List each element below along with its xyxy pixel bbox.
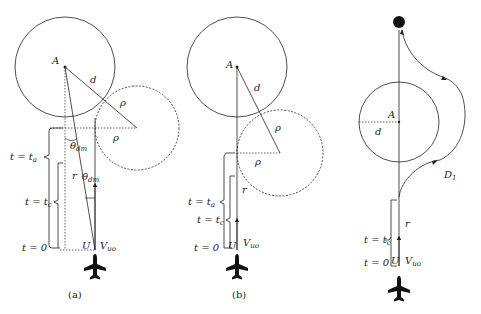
theta-label: θdm — [82, 171, 100, 184]
rho-label: ρ — [274, 122, 281, 133]
rho-label: ρ — [119, 97, 126, 108]
theta-label: θdm — [70, 140, 88, 153]
t-c-label: t = tc — [25, 196, 52, 209]
d1-label: D1 — [443, 169, 457, 182]
center-label: A — [225, 59, 233, 70]
t-a-label: t = ta — [188, 196, 215, 209]
panel-b: A d ρ ρ r U Vuo t = ta t = tc t = 0 (b) — [187, 17, 323, 300]
avoidance-path — [399, 30, 465, 197]
rho-label: ρ — [254, 156, 261, 167]
t-0-label: t = 0 — [194, 242, 220, 253]
u-label: U — [228, 240, 237, 251]
t-c-label: t = tc — [197, 214, 224, 227]
d-label: d — [90, 74, 96, 85]
t-0-label: t = 0 — [22, 242, 48, 253]
r-label: r — [242, 184, 248, 195]
aircraft-icon — [388, 276, 410, 302]
t-c-label: t = tc — [364, 234, 391, 247]
caption-b: (b) — [232, 289, 246, 300]
velocity-label: Vuo — [243, 237, 259, 250]
aircraft-icon — [84, 254, 106, 280]
center-label: A — [51, 55, 59, 66]
aircraft-icon — [226, 254, 248, 280]
rho-label: ρ — [112, 132, 119, 143]
goal-point-icon — [393, 16, 405, 28]
r-label: r — [72, 170, 78, 181]
panel-c: A d D1 r U Vuo t = tc t = 0 — [359, 16, 465, 302]
t-0-label: t = 0 — [364, 257, 390, 268]
u-label: U — [391, 255, 400, 266]
caption-a: (a) — [68, 289, 82, 300]
u-label: U — [82, 240, 91, 251]
panel-a: A d ρ ρ θdm r θdm U Vuo t = ta t = tc t … — [10, 17, 179, 300]
avoidance-diagram: A d ρ ρ θdm r θdm U Vuo t = ta t = tc t … — [0, 0, 481, 314]
t-a-label: t = ta — [10, 151, 37, 164]
r-label: r — [405, 218, 411, 229]
velocity-label: Vuo — [100, 240, 116, 253]
velocity-label: Vuo — [405, 255, 421, 268]
center-label: A — [387, 109, 395, 120]
d-label: d — [375, 126, 381, 137]
d-label: d — [254, 82, 260, 93]
